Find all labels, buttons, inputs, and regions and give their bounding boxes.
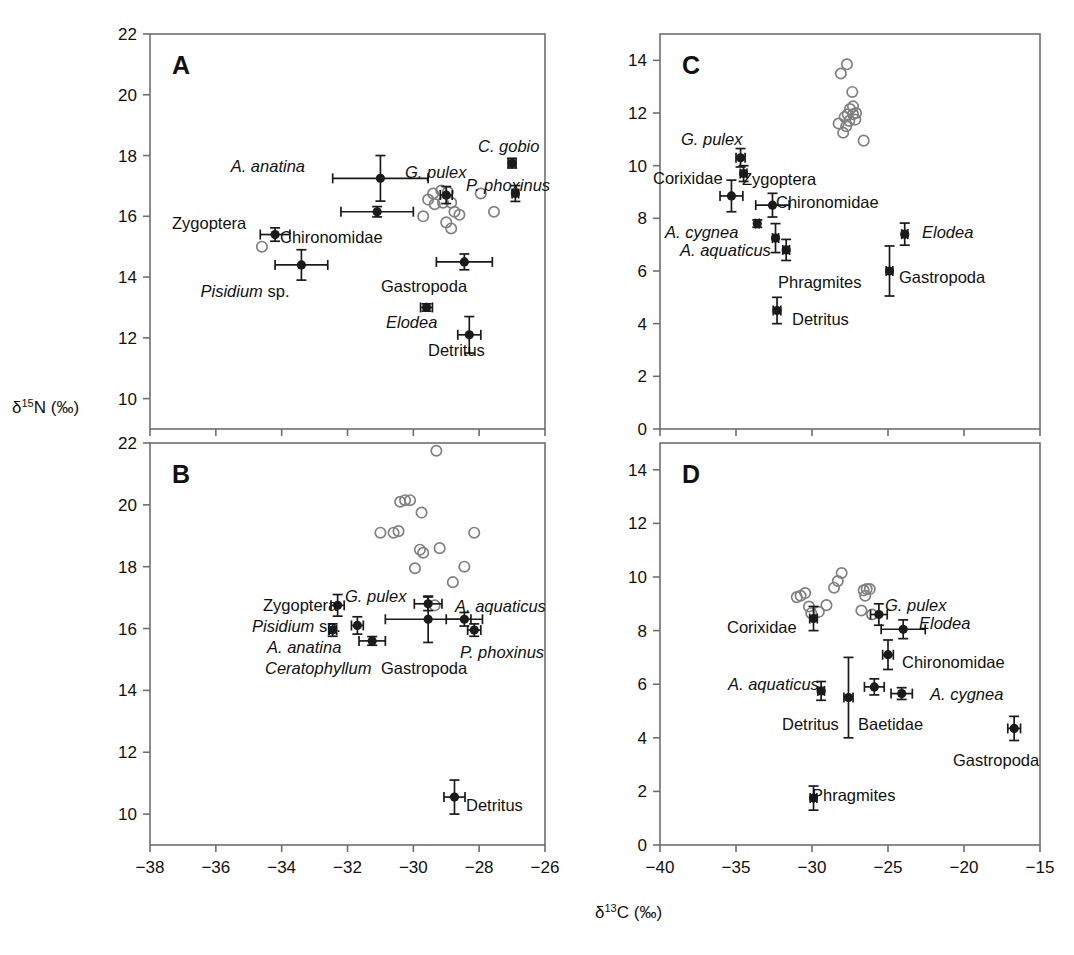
panel-C-sample-point bbox=[842, 59, 852, 69]
panel-label-C: C bbox=[682, 51, 700, 79]
panel-C-mean-a-cygnea-marker bbox=[753, 219, 762, 228]
panel-D-mean-elodea-marker bbox=[899, 625, 908, 634]
panel-B-annotation: Ceratophyllum bbox=[265, 659, 371, 677]
panel-D-xtick-label: −25 bbox=[874, 858, 903, 877]
panel-A-sample-point bbox=[489, 207, 499, 217]
panel-A-annotation: A. anatina bbox=[230, 157, 305, 175]
panel-D-ytick-label: 0 bbox=[638, 836, 647, 855]
panel-D-mean-detritus-marker bbox=[844, 693, 853, 702]
panel-B-sample-point bbox=[375, 527, 385, 537]
panel-A-mean-detritus-marker bbox=[465, 330, 474, 339]
panel-A-mean-elodea-marker bbox=[422, 303, 431, 312]
panel-B-annotation: Pisidium sp. bbox=[252, 617, 341, 635]
panel-D-ytick-label: 4 bbox=[638, 729, 647, 748]
panel-A-ytick-label: 16 bbox=[118, 207, 137, 226]
panel-D-annotation: Chironomidae bbox=[902, 653, 1005, 671]
panel-D-frame bbox=[660, 443, 1040, 845]
panel-D-mean-corixidae-marker bbox=[809, 614, 818, 623]
panel-D-ytick-label: 2 bbox=[638, 782, 647, 801]
panel-B-xtick-label: −30 bbox=[399, 858, 428, 877]
panel-B-sample-point bbox=[459, 561, 469, 571]
panel-D-mean-baetidae-marker bbox=[870, 682, 879, 691]
panel-C-ytick-label: 14 bbox=[628, 51, 647, 70]
figure-canvas: 10121416182022A10121416182022−38−36−34−3… bbox=[0, 0, 1074, 955]
panel-C-mean-elodea-marker bbox=[900, 230, 909, 239]
panel-B-annotation: Detritus bbox=[466, 796, 523, 814]
panel-D-mean-gastropoda-marker bbox=[1010, 724, 1019, 733]
panel-D-xtick-label: −15 bbox=[1026, 858, 1055, 877]
panel-A-mean-gastropoda-marker bbox=[460, 257, 469, 266]
panel-B-mean-detritus-marker bbox=[450, 792, 459, 801]
panel-B-sample-point bbox=[431, 446, 441, 456]
panel-B-sample-point bbox=[434, 543, 444, 553]
panel-B-mean-gastropoda-marker bbox=[424, 615, 433, 624]
panel-C-annotation: A. aquaticus bbox=[679, 241, 771, 259]
panel-A-sample-point bbox=[257, 241, 267, 251]
panel-B-xtick-label: −36 bbox=[201, 858, 230, 877]
panel-B-sample-point bbox=[469, 527, 479, 537]
panel-B-annotation: P. phoxinus bbox=[460, 643, 544, 661]
panel-A-annotation: Pisidium sp. bbox=[201, 282, 290, 300]
panel-D-xtick-label: −35 bbox=[722, 858, 751, 877]
panel-D-annotation: Gastropoda bbox=[953, 751, 1040, 769]
panel-D-annotation: Corixidae bbox=[727, 618, 797, 636]
panel-label-A: A bbox=[172, 51, 190, 79]
panel-C-sample-point bbox=[836, 68, 846, 78]
panel-C-mean-detritus-marker bbox=[772, 306, 781, 315]
panel-B-mean-p-phoxinus-marker bbox=[470, 625, 479, 634]
panel-D-mean-chironomidae-marker bbox=[883, 650, 892, 659]
panel-B-sample-point bbox=[416, 507, 426, 517]
panel-C-ytick-label: 2 bbox=[638, 367, 647, 386]
panel-C-mean-phragmites-marker bbox=[782, 245, 791, 254]
panel-D-sample-point bbox=[856, 605, 866, 615]
panel-D-xtick-label: −20 bbox=[950, 858, 979, 877]
panel-B-ytick-label: 22 bbox=[118, 434, 137, 453]
panel-C-annotation: A. cygnea bbox=[664, 223, 738, 241]
panel-label-D: D bbox=[682, 460, 700, 488]
panel-C-ytick-label: 4 bbox=[638, 315, 647, 334]
panel-D-ytick-label: 12 bbox=[628, 514, 647, 533]
panel-B-ytick-label: 10 bbox=[118, 805, 137, 824]
panel-D-mean-a-cygnea-marker bbox=[897, 689, 906, 698]
panel-D-annotation: Elodea bbox=[919, 614, 970, 632]
panel-D-annotation: Baetidae bbox=[858, 715, 923, 733]
panel-C-annotation: Chironomidae bbox=[776, 193, 879, 211]
panel-C-mean-a-aquaticus-marker bbox=[771, 233, 780, 242]
panel-D-ytick-label: 10 bbox=[628, 568, 647, 587]
panel-B-annotation: Zygoptera bbox=[263, 596, 338, 614]
panel-B-mean-ceratophyllum-marker bbox=[368, 636, 377, 645]
panel-B-xtick-label: −28 bbox=[465, 858, 494, 877]
y-axis-title: δ15N (‰) bbox=[12, 397, 79, 417]
panel-D-annotation: Detritus bbox=[782, 715, 839, 733]
panel-A-annotation: Gastropoda bbox=[381, 277, 468, 295]
panel-A-mean-zygoptera-marker bbox=[270, 230, 279, 239]
panel-A-annotation: Elodea bbox=[386, 313, 437, 331]
panel-A-mean-chironomidae-marker bbox=[373, 207, 382, 216]
panel-C-annotation: Gastropoda bbox=[899, 268, 986, 286]
panel-C-annotation: Zygoptera bbox=[742, 170, 817, 188]
panel-C-ytick-label: 6 bbox=[638, 262, 647, 281]
panel-B-annotation: G. pulex bbox=[345, 587, 407, 605]
panel-C-mean-corixidae-marker bbox=[727, 191, 736, 200]
panel-B-xtick-label: −38 bbox=[136, 858, 165, 877]
panel-C-ytick-label: 0 bbox=[638, 420, 647, 439]
panel-C-annotation: G. pulex bbox=[681, 130, 743, 148]
panel-B-ytick-label: 16 bbox=[118, 620, 137, 639]
panel-A-annotation: C. gobio bbox=[478, 137, 539, 155]
panel-D-ytick-label: 6 bbox=[638, 675, 647, 694]
panel-D-xtick-label: −30 bbox=[798, 858, 827, 877]
panel-C-annotation: Elodea bbox=[922, 223, 973, 241]
panel-D-ytick-label: 8 bbox=[638, 622, 647, 641]
panel-A-ytick-label: 20 bbox=[118, 86, 137, 105]
panel-B-ytick-label: 20 bbox=[118, 496, 137, 515]
panel-A-annotation: G. pulex bbox=[405, 163, 467, 181]
panel-C-ytick-label: 10 bbox=[628, 157, 647, 176]
panel-C-annotation: Detritus bbox=[792, 310, 849, 328]
panel-B-ytick-label: 12 bbox=[118, 743, 137, 762]
panel-A-mean-g-pulex-marker bbox=[442, 190, 451, 199]
panel-B-annotation: A. anatina bbox=[266, 638, 341, 656]
panel-A-ytick-label: 18 bbox=[118, 147, 137, 166]
panel-B-sample-point bbox=[448, 577, 458, 587]
panel-D-annotation: A. cygnea bbox=[929, 685, 1003, 703]
panel-D-annotation: G. pulex bbox=[885, 596, 947, 614]
